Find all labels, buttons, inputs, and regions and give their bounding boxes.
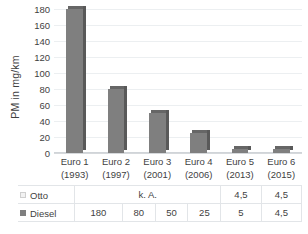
bar-diesel-euro-5 <box>232 149 249 153</box>
table-cell-otto-euro5: 4,5 <box>221 186 261 204</box>
gridline-140 <box>54 41 302 42</box>
bar-side-face <box>166 110 169 150</box>
y-tick-label-180: 180 <box>34 4 50 15</box>
gridline-120 <box>54 57 302 58</box>
gridline-20 <box>54 137 302 138</box>
bar-front-face <box>66 9 83 153</box>
y-tick-label-120: 120 <box>34 52 50 63</box>
legend-swatch-otto-icon <box>20 192 26 198</box>
y-axis-title: PM in mg/km <box>4 22 26 152</box>
bar-diesel-euro-6 <box>273 149 290 153</box>
y-axis-title-text: PM in mg/km <box>9 55 21 118</box>
legend-swatch-diesel-icon <box>20 210 26 216</box>
y-tick-label-100: 100 <box>34 68 50 79</box>
gridline-60 <box>54 105 302 106</box>
gridline-40 <box>54 121 302 122</box>
table-cell-otto-unknown: k. A. <box>75 186 221 204</box>
bar-diesel-euro-1 <box>66 9 83 153</box>
gridline-80 <box>54 89 302 90</box>
y-tick-label-160: 160 <box>34 20 50 31</box>
bar-side-face <box>290 146 293 150</box>
x-label-name: Euro 4 <box>185 156 213 167</box>
x-label-year: (1997) <box>95 168 136 181</box>
x-label-name: Euro 6 <box>267 156 295 167</box>
bar-front-face <box>232 149 249 153</box>
bar-diesel-euro-3 <box>149 113 166 153</box>
y-tick-label-20: 20 <box>39 132 50 143</box>
gridline-0 <box>54 153 302 154</box>
series-label-diesel: Diesel <box>30 207 56 218</box>
bar-slot-euro-6 <box>273 9 290 153</box>
bar-front-face <box>108 89 125 153</box>
x-label-year: (2013) <box>219 168 260 181</box>
gridline-160 <box>54 25 302 26</box>
bar-side-face <box>248 146 251 150</box>
bar-slot-euro-3 <box>149 9 166 153</box>
y-tick-label-0: 0 <box>45 148 50 159</box>
bar-diesel-euro-2 <box>108 89 125 153</box>
y-tick-label-80: 80 <box>39 84 50 95</box>
chart-figure: PM in mg/km 180160140120100806040200 Eur… <box>0 0 308 234</box>
x-label-year: (1993) <box>54 168 95 181</box>
table-cell-diesel-euro1: 180 <box>75 204 123 222</box>
series-label-otto: Otto <box>30 189 48 200</box>
series-header-otto: Otto <box>18 186 75 204</box>
bar-front-face <box>190 133 207 153</box>
x-label-year: (2001) <box>137 168 178 181</box>
table-cell-otto-euro6: 4,5 <box>261 186 301 204</box>
bar-side-face <box>83 6 86 150</box>
x-label-name: Euro 1 <box>61 156 89 167</box>
table-row-otto: Otto k. A. 4,5 4,5 <box>18 186 302 204</box>
x-label-year: (2006) <box>178 168 219 181</box>
x-axis-category-labels: Euro 1(1993)Euro 2(1997)Euro 3(2001)Euro… <box>54 155 302 185</box>
x-label-euro-2: Euro 2(1997) <box>95 155 136 181</box>
data-table: Otto k. A. 4,5 4,5 Diesel 180 80 50 25 5… <box>18 185 302 222</box>
x-label-euro-1: Euro 1(1993) <box>54 155 95 181</box>
plot-area <box>54 9 302 153</box>
bar-side-face <box>124 86 127 150</box>
bar-front-face <box>149 113 166 153</box>
table-cell-diesel-euro6: 4,5 <box>261 204 301 222</box>
table-row-diesel: Diesel 180 80 50 25 5 4,5 <box>18 204 302 222</box>
x-label-name: Euro 5 <box>226 156 254 167</box>
x-label-name: Euro 2 <box>102 156 130 167</box>
bar-side-face <box>207 130 210 150</box>
bar-slot-euro-4 <box>190 9 207 153</box>
y-tick-label-140: 140 <box>34 36 50 47</box>
bar-slot-euro-5 <box>232 9 249 153</box>
x-label-year: (2015) <box>261 168 302 181</box>
bar-front-face <box>273 149 290 153</box>
gridline-180 <box>54 9 302 10</box>
x-label-euro-4: Euro 4(2006) <box>178 155 219 181</box>
x-label-name: Euro 3 <box>143 156 171 167</box>
x-label-euro-5: Euro 5(2013) <box>219 155 260 181</box>
bar-slot-euro-2 <box>108 9 125 153</box>
table-cell-diesel-euro5: 5 <box>221 204 261 222</box>
table-cell-diesel-euro4: 25 <box>188 204 221 222</box>
x-label-euro-3: Euro 3(2001) <box>137 155 178 181</box>
table-cell-diesel-euro2: 80 <box>122 204 155 222</box>
series-header-diesel: Diesel <box>18 204 75 222</box>
x-label-euro-6: Euro 6(2015) <box>261 155 302 181</box>
bar-slot-euro-1 <box>66 9 83 153</box>
y-axis-tick-labels: 180160140120100806040200 <box>24 9 50 153</box>
y-tick-label-40: 40 <box>39 116 50 127</box>
table-cell-diesel-euro3: 50 <box>155 204 188 222</box>
gridline-100 <box>54 73 302 74</box>
bar-diesel-euro-4 <box>190 133 207 153</box>
y-tick-label-60: 60 <box>39 100 50 111</box>
